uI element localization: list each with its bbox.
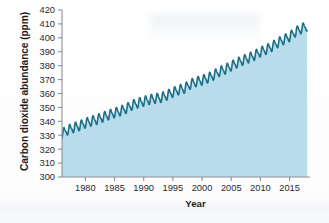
x-tick-label: 1990 <box>133 183 154 193</box>
y-axis-ticks: 300310320330340350360370380390400410420 <box>39 5 62 182</box>
x-axis-ticks: 19801985199019952000200520102015 <box>75 177 300 193</box>
x-tick-label: 2000 <box>192 183 213 193</box>
y-tick-label: 360 <box>39 89 55 99</box>
x-tick-label: 1985 <box>104 183 125 193</box>
chart-plot-area: 300310320330340350360370380390400410420 … <box>0 0 329 223</box>
y-tick-label: 400 <box>39 33 55 43</box>
y-tick-label: 330 <box>39 131 55 141</box>
y-tick-label: 380 <box>39 61 55 71</box>
x-tick-label: 2015 <box>279 183 300 193</box>
x-tick-label: 1995 <box>163 183 184 193</box>
y-tick-label: 390 <box>39 47 55 57</box>
y-tick-label: 420 <box>39 5 55 15</box>
x-tick-label: 2010 <box>250 183 271 193</box>
area-fill <box>62 23 307 177</box>
co2-chart-figure: Carbon dioxide abundance (ppm) 300310320… <box>0 0 329 223</box>
y-tick-label: 410 <box>39 19 55 29</box>
y-tick-label: 350 <box>39 103 55 113</box>
y-tick-label: 310 <box>39 158 55 168</box>
y-tick-label: 370 <box>39 75 55 85</box>
x-tick-label: 2005 <box>221 183 242 193</box>
y-tick-label: 320 <box>39 145 55 155</box>
x-tick-label: 1980 <box>75 183 96 193</box>
y-tick-label: 340 <box>39 117 55 127</box>
y-tick-label: 300 <box>39 172 55 182</box>
x-axis-label: Year <box>0 198 329 209</box>
